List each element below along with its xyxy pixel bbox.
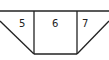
trapezoid-diagram: 5 6 7 [0,0,109,60]
region-label-5: 5 [19,18,25,29]
region-label-7: 7 [82,18,88,29]
region-label-6: 6 [52,18,58,29]
left-diagonal [0,21,34,54]
